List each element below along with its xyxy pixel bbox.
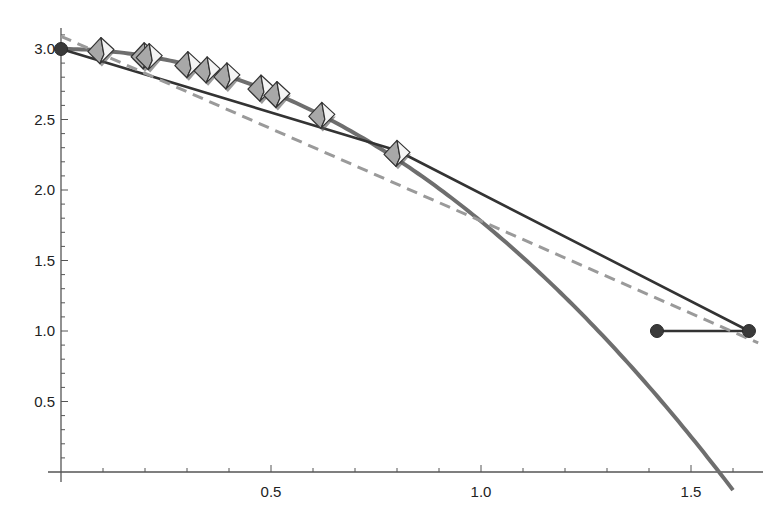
y-tick-label: 0.5 <box>34 393 55 410</box>
axes <box>48 28 763 482</box>
points-layer <box>55 43 756 338</box>
chart: 0.51.01.50.51.01.52.02.53.0 <box>0 0 784 520</box>
x-tick-label: 0.5 <box>261 483 282 500</box>
y-tick-label: 1.0 <box>34 322 55 339</box>
markers-layer <box>88 38 411 170</box>
x-tick-label: 1.0 <box>471 483 492 500</box>
polyline-line <box>61 49 749 331</box>
end-point-left <box>650 325 663 338</box>
octahedron-marker <box>88 38 115 67</box>
y-tick-label: 2.5 <box>34 111 55 128</box>
x-tick-label: 1.5 <box>681 483 702 500</box>
fit-line-line <box>61 36 758 343</box>
y-tick-label: 1.5 <box>34 252 55 269</box>
y-tick-label: 3.0 <box>34 40 55 57</box>
end-point-right <box>742 325 755 338</box>
octahedron-marker <box>309 102 336 131</box>
series-layer <box>61 36 758 490</box>
curve-line <box>61 49 733 490</box>
start-point <box>55 43 68 56</box>
tick-labels: 0.51.01.50.51.01.52.02.53.0 <box>34 40 701 500</box>
y-tick-label: 2.0 <box>34 181 55 198</box>
